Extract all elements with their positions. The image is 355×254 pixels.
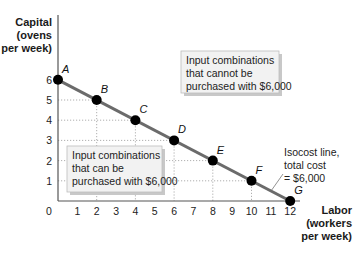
annotation-text: Input combinations xyxy=(186,54,274,66)
y-axis-title: Capital xyxy=(15,16,52,28)
x-tick-label: 10 xyxy=(246,205,258,217)
annotation-text: = $6,000 xyxy=(284,172,325,184)
point-A xyxy=(53,75,63,85)
point-G xyxy=(285,196,295,206)
point-E xyxy=(208,156,218,166)
x-tick-label: 2 xyxy=(94,205,100,217)
annotation-isocost: Isocost line,total cost= $6,000 xyxy=(271,146,339,191)
x-tick-label: 4 xyxy=(132,205,138,217)
isocost-pointer xyxy=(271,174,283,191)
point-label: F xyxy=(256,164,264,176)
y-tick-label: 5 xyxy=(46,94,52,106)
point-D xyxy=(169,135,179,145)
annotation-text: Isocost line, xyxy=(284,146,339,158)
point-label: C xyxy=(139,103,147,115)
x-tick-label: 12 xyxy=(284,205,296,217)
y-tick-label: 4 xyxy=(46,114,52,126)
y-tick-label: 3 xyxy=(46,134,52,146)
point-C xyxy=(130,115,140,125)
annotation-cannot: Input combinationsthat cannot bepurchase… xyxy=(181,51,292,96)
annotation-text: purchased with $6,000 xyxy=(72,175,178,187)
point-label: A xyxy=(61,63,69,75)
point-label: E xyxy=(217,144,225,156)
x-tick-label: 1 xyxy=(74,205,80,217)
y-axis-title: (ovens xyxy=(17,29,52,41)
x-tick-label: 9 xyxy=(229,205,235,217)
x-axis-title: Labor xyxy=(321,204,352,216)
point-label: D xyxy=(178,123,186,135)
x-tick-label: 6 xyxy=(171,205,177,217)
x-tick-label: 5 xyxy=(152,205,158,217)
point-label: G xyxy=(294,184,303,196)
annotation-boxes: Input combinationsthat cannot bepurchase… xyxy=(67,51,339,195)
annotation-text: that cannot be xyxy=(186,67,253,79)
y-tick-label: 6 xyxy=(46,74,52,86)
x-tick-label: 0 xyxy=(46,205,52,217)
x-axis-title: (workers xyxy=(306,217,352,229)
point-label: B xyxy=(101,83,108,95)
point-F xyxy=(247,176,257,186)
annotation-can: Input combinationsthat can bepurchased w… xyxy=(67,146,178,195)
annotation-text: purchased with $6,000 xyxy=(186,80,292,92)
isocost-chart: 0123456789101112123456 Input combination… xyxy=(0,0,355,254)
annotation-text: total cost xyxy=(284,159,326,171)
x-tick-label: 11 xyxy=(265,205,276,217)
x-tick-label: 8 xyxy=(210,205,216,217)
point-B xyxy=(92,95,102,105)
x-tick-label: 7 xyxy=(191,205,197,217)
y-tick-label: 2 xyxy=(46,155,52,167)
y-tick-label: 1 xyxy=(46,175,52,187)
x-tick-label: 3 xyxy=(113,205,119,217)
y-axis-title: per week) xyxy=(1,42,52,54)
x-axis-title: per week) xyxy=(301,230,352,242)
annotation-text: that can be xyxy=(72,162,124,174)
annotation-text: Input combinations xyxy=(72,149,160,161)
